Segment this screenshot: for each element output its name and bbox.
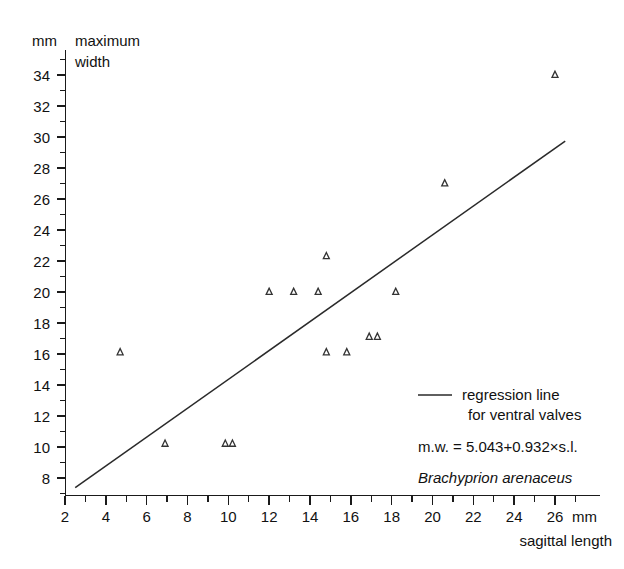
y-axis-unit-label: mm (32, 32, 57, 49)
data-point-triangle (323, 349, 329, 355)
y-tick-label: 20 (33, 284, 50, 301)
x-tick-label: 2 (61, 508, 69, 525)
y-tick-label: 34 (33, 67, 50, 84)
legend-group: regression line for ventral valves m.w. … (418, 386, 581, 486)
data-point-triangle (291, 288, 297, 294)
y-tick-label: 12 (33, 408, 50, 425)
data-point-triangle (552, 71, 558, 77)
data-point-triangle (442, 180, 448, 186)
x-tick-label: 4 (102, 508, 110, 525)
legend-taxon-name: Brachyprion arenaceus (418, 469, 573, 486)
x-tick-label: 8 (183, 508, 191, 525)
data-point-triangle (222, 440, 228, 446)
y-axis-title-line1: maximum (75, 32, 140, 49)
regression-line-path (75, 141, 565, 488)
data-point-triangle (117, 349, 123, 355)
legend-regression-label-line2: for ventral valves (468, 406, 581, 423)
legend-equation: m.w. = 5.043+0.932×s.l. (418, 438, 578, 455)
x-tick-label: 6 (142, 508, 150, 525)
y-tick-marks (57, 60, 66, 494)
y-tick-label: 18 (33, 315, 50, 332)
y-tick-label: 26 (33, 191, 50, 208)
y-tick-label: 30 (33, 129, 50, 146)
data-point-triangle (229, 440, 235, 446)
data-point-triangle (266, 288, 272, 294)
data-point-triangle (393, 288, 399, 294)
y-tick-label: 8 (42, 470, 50, 487)
y-tick-labels: 810121416182022242628303234 (33, 67, 50, 487)
x-tick-labels: 2468101214161820222426 (61, 508, 564, 525)
x-tick-label: 26 (547, 508, 564, 525)
x-tick-label: 20 (424, 508, 441, 525)
data-point-triangle (344, 349, 350, 355)
y-tick-label: 16 (33, 346, 50, 363)
x-tick-label: 10 (220, 508, 237, 525)
y-tick-label: 14 (33, 377, 50, 394)
x-tick-marks (65, 496, 575, 505)
x-tick-label: 12 (261, 508, 278, 525)
y-tick-label: 32 (33, 98, 50, 115)
y-tick-label: 22 (33, 253, 50, 270)
x-axis-title: sagittal length (519, 532, 612, 549)
y-tick-label: 28 (33, 160, 50, 177)
y-axis-title-line2: width (74, 53, 110, 70)
data-point-triangle (315, 288, 321, 294)
x-axis-unit-label: mm (572, 508, 597, 525)
scatter-plot-figure: 810121416182022242628303234 246810121416… (0, 0, 624, 569)
y-tick-label: 24 (33, 222, 50, 239)
x-tick-label: 18 (383, 508, 400, 525)
x-tick-label: 24 (506, 508, 523, 525)
data-point-triangle (374, 333, 380, 339)
x-tick-label: 16 (342, 508, 359, 525)
y-tick-label: 10 (33, 439, 50, 456)
data-point-triangle (162, 440, 168, 446)
x-tick-label: 14 (302, 508, 319, 525)
data-point-triangle (323, 253, 329, 259)
data-point-triangle (366, 333, 372, 339)
legend-regression-label-line1: regression line (462, 386, 560, 403)
regression-line (75, 141, 565, 488)
x-tick-label: 22 (465, 508, 482, 525)
plot-canvas: 810121416182022242628303234 246810121416… (0, 0, 624, 569)
